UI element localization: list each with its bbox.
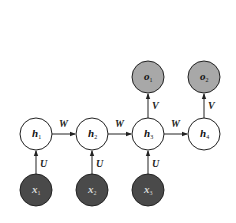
edge-label-w: W	[59, 118, 69, 129]
node-label-sub: 1	[38, 134, 41, 140]
edge-x3-h3: U	[148, 151, 160, 174]
node-label-sub: 2	[94, 190, 97, 196]
edge-h4-o2: V	[204, 94, 216, 118]
node-label-sub: 3	[150, 190, 153, 196]
hidden-node-h4: h4	[188, 118, 220, 150]
node-label-sub: 1	[150, 77, 153, 83]
node-label-sub: 2	[94, 134, 97, 140]
node-label-sub: 1	[38, 190, 41, 196]
rnn-diagram: U U U W W W V V h1 h2 h3	[0, 0, 236, 223]
output-node-o2: o2	[188, 61, 220, 93]
edge-h3-h4: W	[164, 118, 187, 134]
edge-label-u: U	[96, 158, 104, 169]
hidden-node-h2: h2	[76, 118, 108, 150]
edge-label-v: V	[152, 100, 160, 111]
hidden-node-h1: h1	[20, 118, 52, 150]
edge-x2-h2: U	[92, 151, 104, 174]
input-node-x1: x1	[20, 174, 52, 206]
edge-label-u: U	[40, 158, 48, 169]
edge-label-u: U	[152, 158, 160, 169]
edge-h3-o1: V	[148, 94, 160, 118]
edge-h1-h2: W	[52, 118, 75, 134]
node-label-sub: 3	[150, 134, 153, 140]
hidden-node-h3: h3	[132, 118, 164, 150]
input-node-x3: x3	[132, 174, 164, 206]
edge-x1-h1: U	[36, 151, 48, 174]
edge-label-w: W	[115, 118, 125, 129]
node-label-sub: 2	[206, 77, 209, 83]
edge-label-w: W	[171, 118, 181, 129]
input-node-x2: x2	[76, 174, 108, 206]
edge-label-v: V	[208, 100, 216, 111]
node-label-sub: 4	[206, 134, 209, 140]
edge-h2-h3: W	[108, 118, 131, 134]
output-node-o1: o1	[132, 61, 164, 93]
